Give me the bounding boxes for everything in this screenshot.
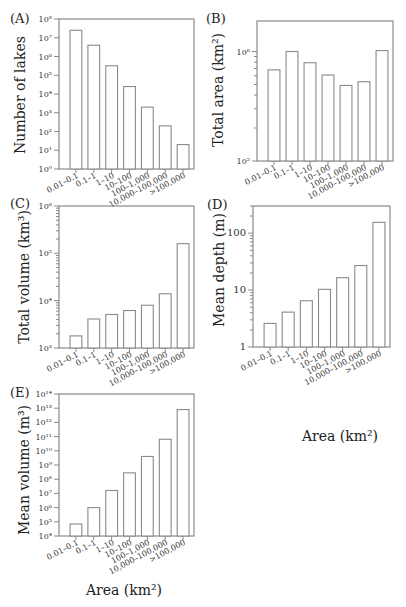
y-tick-label: 10⁹	[39, 461, 53, 470]
y-tick-label: 10³	[39, 344, 52, 353]
bar	[373, 222, 385, 347]
panel-d: 1101000.01–0.10.1–11–1010–100100–1,00010…	[227, 206, 390, 387]
y-tick-label: 10¹¹	[35, 433, 52, 442]
bar	[124, 310, 136, 348]
bar	[322, 75, 334, 161]
bar	[304, 63, 316, 161]
y-tick-label: 10¹²	[35, 418, 52, 427]
bar	[300, 301, 312, 347]
panel-c-label: (C)	[10, 196, 30, 211]
panel-c-ylabel: Total volume (km³)	[16, 210, 32, 344]
panel-e-xlabel: Area (km²)	[86, 582, 162, 598]
panel-d-ylabel: Mean depth (m)	[211, 213, 227, 327]
bar	[340, 85, 352, 161]
panel-e-ylabel: Mean volume (m³)	[16, 405, 32, 535]
panel-d-xlabel: Area (km²)	[302, 428, 378, 444]
bar	[141, 107, 153, 169]
bar	[264, 323, 276, 347]
bar	[124, 473, 136, 536]
bar	[106, 315, 118, 348]
y-tick-label: 10⁶	[39, 504, 52, 513]
bar	[268, 70, 280, 161]
bar	[88, 508, 100, 536]
bar	[319, 289, 331, 347]
y-tick-label: 10¹⁴	[35, 390, 52, 399]
y-tick-label: 10⁴	[39, 532, 52, 541]
panel-d-label: (D)	[207, 197, 228, 212]
bar	[159, 439, 171, 536]
panel-e-label: (E)	[10, 385, 30, 400]
y-tick-label: 10⁴	[39, 297, 52, 306]
y-tick-label: 10⁰	[39, 165, 52, 174]
y-tick-label: 10	[233, 284, 246, 295]
bar	[70, 336, 82, 348]
bar	[177, 244, 189, 348]
bar	[106, 66, 118, 169]
panel-a-ylabel: Number of lakes	[12, 36, 28, 154]
y-tick-label: 10¹	[39, 146, 52, 155]
bar	[159, 126, 171, 169]
y-tick-label: 10⁵	[39, 518, 52, 527]
y-tick-label: 10⁷	[39, 34, 52, 43]
y-tick-label: 10³	[39, 109, 52, 118]
bar	[141, 456, 153, 536]
bar	[177, 145, 189, 169]
bar	[70, 30, 82, 169]
bar	[286, 52, 298, 161]
y-tick-label: 10⁵	[39, 249, 52, 258]
bar	[88, 45, 100, 169]
y-tick-label: 1	[240, 341, 246, 352]
y-tick-label: 10²	[39, 128, 52, 137]
y-tick-label: 10⁶	[237, 48, 250, 57]
y-tick-label: 10⁸	[39, 475, 52, 484]
bar	[337, 278, 349, 347]
panel-a: 10⁰10¹10²10³10⁴10⁵10⁶10⁷10⁸0.01–0.10.1–1…	[39, 15, 194, 209]
panel-b-label: (B)	[206, 11, 226, 26]
y-tick-label: 10¹³	[35, 404, 52, 413]
y-tick-label: 10⁸	[39, 15, 52, 24]
bar	[376, 51, 388, 161]
y-tick-label: 100	[227, 227, 246, 238]
bar	[88, 319, 100, 348]
panel-b: 10⁵10⁶0.01–0.10.1–11–1010–100100–1,00010…	[237, 21, 393, 201]
panel-e: 10⁴10⁵10⁶10⁷10⁸10⁹10¹⁰10¹¹10¹²10¹³10¹⁴0.…	[35, 390, 194, 576]
bar	[355, 266, 367, 347]
bar	[70, 524, 82, 536]
y-tick-label: 10⁶	[39, 202, 52, 211]
bar	[282, 312, 294, 347]
y-tick-label: 10⁵	[39, 71, 52, 80]
figure-canvas: 10⁰10¹10²10³10⁴10⁵10⁶10⁷10⁸0.01–0.10.1–1…	[0, 0, 406, 607]
y-tick-label: 10⁶	[39, 53, 52, 62]
bar	[177, 410, 189, 536]
bar	[124, 87, 136, 169]
panel-c: 10³10⁴10⁵10⁶0.01–0.10.1–11–1010–100100–1…	[39, 202, 194, 388]
bar	[159, 294, 171, 348]
panel-a-label: (A)	[10, 11, 30, 26]
y-tick-label: 10⁴	[39, 90, 52, 99]
y-tick-label: 10¹⁰	[35, 447, 52, 456]
bar	[106, 491, 118, 536]
panel-b-ylabel: Total area (km²)	[210, 33, 226, 147]
y-tick-label: 10⁵	[237, 157, 250, 166]
y-tick-label: 10⁷	[39, 489, 52, 498]
bar	[358, 82, 370, 161]
bar	[141, 305, 153, 348]
